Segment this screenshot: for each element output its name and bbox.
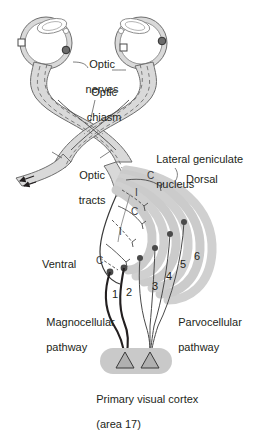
left-eye-open-marker bbox=[18, 39, 25, 46]
lgn-code-i-1: I bbox=[135, 187, 138, 198]
label-optic-tracts-line2: tracts bbox=[79, 194, 106, 206]
label-magno-line1: Magnocellular bbox=[46, 316, 114, 328]
label-ventral: Ventral bbox=[42, 258, 76, 271]
label-optic-chiasm-line1: Optic bbox=[91, 86, 117, 98]
lgn-layer-number-3: 3 bbox=[152, 280, 158, 292]
label-parvo-line2: pathway bbox=[178, 341, 219, 353]
left-eye bbox=[18, 16, 72, 69]
lgn-code-i-2: I bbox=[119, 226, 122, 237]
label-optic-chiasm-line2: chiasm bbox=[87, 111, 122, 123]
right-eye bbox=[115, 16, 167, 69]
label-primary-visual-cortex: Primary visual cortex (area 17) bbox=[84, 380, 234, 434]
label-dorsal: Dorsal bbox=[186, 173, 218, 186]
label-optic-chiasm: Optic chiasm bbox=[70, 73, 126, 136]
label-optic-tracts-line1: Optic bbox=[79, 169, 105, 181]
label-optic-tracts: Optic tracts bbox=[64, 156, 108, 219]
label-optic-nerves-line1: Optic bbox=[89, 58, 115, 70]
lgn-layer-number-4: 4 bbox=[166, 270, 172, 282]
lgn-code-c-2: C bbox=[131, 206, 138, 217]
label-lateral-geniculate-nucleus: Lateral geniculate nucleus bbox=[144, 140, 252, 203]
right-eye-filled-marker bbox=[158, 37, 166, 45]
label-parvo-line1: Parvocellular bbox=[178, 316, 242, 328]
lgn-layer-number-1: 1 bbox=[112, 288, 118, 300]
lgn-code-c-1: C bbox=[147, 170, 154, 181]
left-eye-filled-marker bbox=[62, 46, 70, 54]
label-cortex-line1: Primary visual cortex bbox=[96, 393, 198, 405]
lgn-layer-number-6: 6 bbox=[194, 250, 200, 262]
label-magnocellular-pathway: Magnocellular pathway bbox=[34, 303, 130, 366]
label-magno-line2: pathway bbox=[46, 341, 87, 353]
lgn-layer-number-5: 5 bbox=[180, 258, 186, 270]
lgn-code-c-3: C bbox=[96, 255, 103, 266]
lgn-layer-number-2: 2 bbox=[126, 286, 132, 298]
label-parvocellular-pathway: Parvocellular pathway bbox=[166, 303, 256, 366]
label-cortex-line2: (area 17) bbox=[96, 418, 141, 430]
label-lgn-line1: Lateral geniculate bbox=[156, 153, 243, 165]
